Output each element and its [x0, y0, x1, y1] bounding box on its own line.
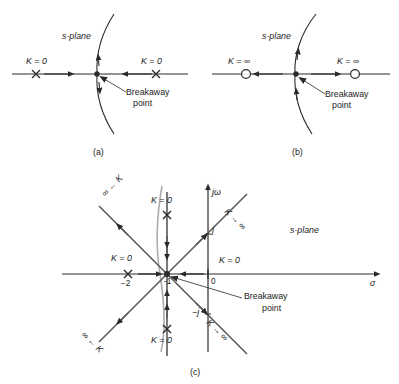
panel-a-breakaway-leader	[101, 77, 126, 92]
panel-b-plane-label: s-plane	[262, 32, 291, 41]
panel-a-branch-arrow-down	[99, 82, 100, 92]
panel-c-caption: (c)	[190, 368, 200, 377]
panel-c-breakaway-leader	[172, 277, 242, 298]
panel-b-breakaway-dot	[293, 71, 298, 76]
panel-c-asymptote-lower-left	[99, 274, 167, 342]
panel-b-breakaway-label-line2: point	[332, 101, 351, 110]
panel-c-sigma-label: σ	[370, 279, 375, 288]
panel-c-breakaway-value-label: -1	[164, 278, 171, 286]
panel-b-zero-left	[242, 70, 251, 79]
panel-b	[212, 14, 390, 134]
panel-c-tick-label-minus2: −2	[121, 280, 130, 288]
panel-a	[12, 14, 188, 134]
panel-a-caption: (a)	[93, 148, 104, 157]
panel-c-origin-label: 0	[211, 278, 216, 286]
panel-a-left-gain-label: K = 0	[26, 57, 47, 66]
panel-a-plane-label: s-plane	[62, 32, 91, 41]
panel-c-label-minus-j: −j	[192, 308, 199, 317]
panel-c-asym-ll-arrow	[118, 313, 128, 323]
panel-c-breakaway-label-line2: point	[262, 304, 281, 313]
panel-c-breakaway-label-line1: Breakaway	[244, 292, 288, 301]
panel-c-gain-label-lower-pole: K = 0	[151, 336, 172, 345]
panel-b-zero-right	[351, 70, 360, 79]
panel-a-breakaway-dot	[94, 71, 99, 76]
panel-c-gain-label-origin: K = 0	[219, 256, 240, 265]
panel-a-branch-arrow-up	[98, 56, 99, 66]
panel-c-asym-ul-arrow	[118, 225, 128, 235]
panel-c-label-j: j	[212, 226, 214, 235]
root-locus-figure: s-plane K = 0 K = 0 Breakaway point (a) …	[0, 0, 399, 384]
panel-a-right-gain-label: K = 0	[141, 57, 162, 66]
panel-b-right-gain-label: K = ∞	[337, 57, 359, 66]
panel-b-breakaway-label-line1: Breakaway	[325, 90, 369, 99]
panel-b-breakaway-leader	[300, 78, 325, 94]
panel-a-breakaway-label-line2: point	[133, 99, 152, 108]
panel-b-caption: (b)	[292, 148, 303, 157]
panel-c-gain-label-real-pole: K = 0	[111, 254, 132, 263]
panel-a-breakaway-label-line1: Breakaway	[126, 88, 170, 97]
panel-c-gain-label-upper-pole: K = 0	[151, 196, 172, 205]
panel-c-jomega-label: jω	[212, 188, 221, 197]
panel-c-plane-label: s-plane	[290, 226, 319, 235]
panel-b-left-gain-label: K = ∞	[228, 57, 250, 66]
panel-c-asym-ur-arrow	[196, 235, 206, 245]
